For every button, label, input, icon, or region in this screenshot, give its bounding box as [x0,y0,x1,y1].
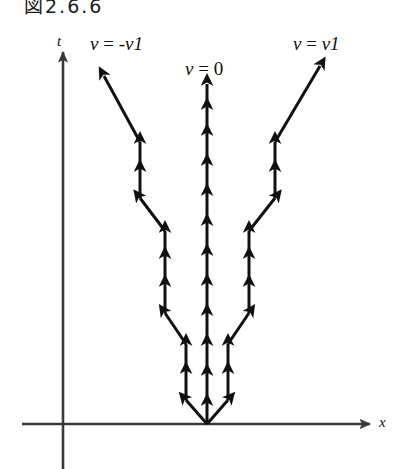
worldline-left-value: -v1 [119,33,143,54]
time-axis-label: t [57,33,61,50]
worldline-right [207,66,320,424]
worldline-center-equals: = [193,58,213,79]
axes-group [22,52,370,469]
worldline-left-equals: = [98,33,118,54]
worldline-center-value: 0 [214,58,224,79]
worldline-center-label: v = 0 [185,58,223,80]
worldline-right-label: v = v1 [293,33,340,55]
position-axis-label: x [379,414,386,431]
worldline-left [104,76,207,424]
worldline-right-equals: = [301,33,321,54]
spacetime-figure: 図2.6.6 [0,0,402,469]
worldline-right-value: v1 [322,33,340,54]
worldline-left-label: v = -v1 [90,33,143,55]
